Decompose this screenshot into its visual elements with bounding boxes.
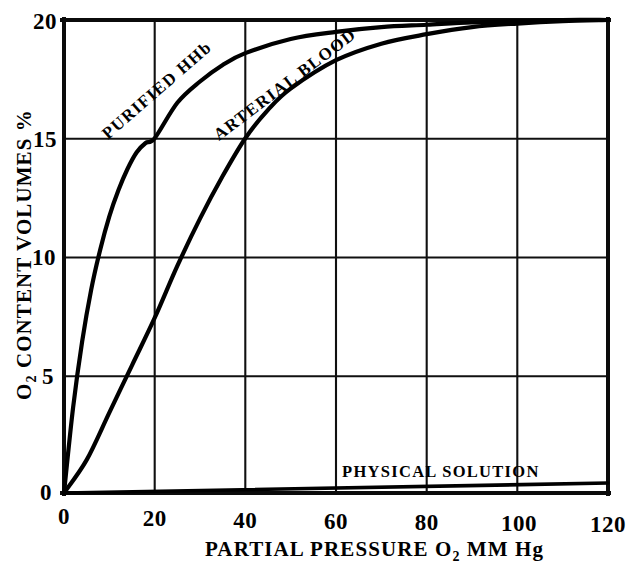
x-tick-120: 120 (590, 512, 626, 537)
x-tick-80: 80 (415, 510, 439, 535)
x-tick-100: 100 (501, 511, 537, 536)
chart-svg: 0 20 40 60 80 100 120 0 5 10 15 20 PARTI… (0, 0, 635, 563)
curve-label-purified-hhb: PURIFIED HHb (98, 37, 215, 143)
y-tick-15: 15 (33, 127, 57, 152)
y-tick-0: 0 (40, 480, 52, 505)
x-tick-0: 0 (58, 504, 70, 529)
curve-label-purified-hhb-text: PURIFIED HHb (98, 37, 215, 143)
x-axis-title-main: PARTIAL PRESSURE O (205, 537, 452, 561)
x-axis-title-subscript: 2 (452, 549, 460, 563)
x-tick-labels: 0 20 40 60 80 100 120 (58, 504, 626, 537)
curve-label-physical-solution: PHYSICAL SOLUTION (342, 462, 540, 481)
x-tick-40: 40 (233, 508, 257, 533)
x-axis-title-tail: MM Hg (461, 537, 545, 561)
x-tick-20: 20 (143, 506, 167, 531)
curve-label-physical-solution-text: PHYSICAL SOLUTION (342, 462, 540, 481)
curve-label-arterial-blood-text: ARTERIAL BLOOD (210, 25, 360, 145)
x-axis-title: PARTIAL PRESSURE O2 MM Hg (205, 537, 544, 563)
y-axis-title-subscript: 2 (24, 374, 39, 382)
curve-label-arterial-blood: ARTERIAL BLOOD (210, 25, 360, 145)
y-axis-title: O2 CONTENT VOLUMES % (12, 109, 39, 400)
svg-text:O2 CONTENT VOLUMES %: O2 CONTENT VOLUMES % (12, 109, 39, 400)
svg-text:PARTIAL PRESSURE O2 MM Hg: PARTIAL PRESSURE O2 MM Hg (205, 537, 544, 563)
y-axis-title-tail: CONTENT VOLUMES % (12, 109, 36, 374)
x-tick-60: 60 (324, 509, 348, 534)
oxygen-dissociation-figure: 0 20 40 60 80 100 120 0 5 10 15 20 PARTI… (0, 0, 635, 563)
y-tick-5: 5 (42, 364, 54, 389)
y-axis-title-main: O (12, 383, 36, 400)
y-tick-20: 20 (33, 9, 57, 34)
